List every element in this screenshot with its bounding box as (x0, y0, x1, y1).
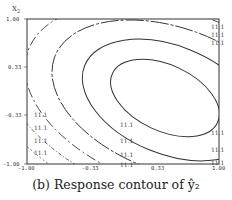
svg-text:11.1: 11.1 (211, 129, 224, 136)
contour-7 (0, 0, 232, 172)
contour-labels-center: 11.1 11.1 11.1 11.1 (120, 121, 133, 168)
svg-text:11.1: 11.1 (211, 39, 224, 46)
contour-3 (30, 0, 232, 172)
contour-labels-right-top: 11.1 11.1 11.1 (211, 23, 224, 46)
contour-5 (0, 0, 232, 172)
contour-labels-right-bottom: 11.1 11.1 11.1 (211, 129, 224, 166)
figure-caption: (b) Response contour of ŷ₂ (0, 177, 232, 192)
svg-text:11.1: 11.1 (211, 31, 224, 38)
svg-text:11.1: 11.1 (211, 146, 224, 153)
contour-plot: X2 1.00 0.33 -0.33 -1.00 -1.00 -0.33 0.3… (0, 0, 232, 172)
contour-4 (0, 0, 232, 172)
y-axis-label: X2 (12, 5, 20, 14)
svg-text:11.1: 11.1 (120, 151, 133, 158)
svg-text:11.1: 11.1 (120, 137, 133, 144)
svg-text:11.1: 11.1 (34, 149, 47, 156)
svg-text:11.1: 11.1 (34, 124, 47, 131)
x-axis-label: X1 (215, 171, 223, 172)
contour-6 (0, 0, 232, 172)
y-tick-1: 1.00 (6, 16, 19, 22)
x-tick-2: -0.33 (82, 165, 99, 171)
y-tick-2: 0.33 (8, 64, 21, 70)
x-tick-3: 0.33 (151, 165, 164, 171)
y-tick-3: -0.33 (5, 112, 22, 118)
x-tick-1: -1.00 (18, 165, 35, 171)
contour-lines (0, 0, 232, 172)
svg-text:11.1: 11.1 (120, 121, 133, 128)
svg-text:11.1: 11.1 (34, 111, 47, 118)
contour-2 (64, 15, 232, 172)
svg-text:11.1: 11.1 (211, 23, 224, 30)
svg-text:11.1: 11.1 (34, 137, 47, 144)
svg-text:11.1: 11.1 (211, 159, 224, 166)
